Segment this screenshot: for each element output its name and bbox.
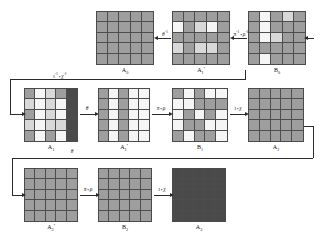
matrix-cell bbox=[119, 99, 129, 109]
matrix-cell bbox=[260, 43, 271, 53]
matrix-cell bbox=[173, 54, 184, 64]
matrix-cell bbox=[119, 54, 130, 64]
matrix-cell bbox=[207, 12, 218, 22]
matrix-cell bbox=[260, 110, 271, 120]
matrix-cell bbox=[35, 131, 45, 141]
transform-label-arrow-pi-rho-inv: π-1∘ρ-1 bbox=[221, 29, 261, 38]
matrix-cell bbox=[129, 99, 139, 109]
matrix-cell bbox=[249, 89, 260, 99]
matrix-cell bbox=[131, 22, 142, 32]
matrix-cell bbox=[249, 12, 260, 22]
matrix-cell bbox=[294, 43, 305, 53]
matrix-cell bbox=[99, 131, 109, 141]
arrow-segment bbox=[10, 79, 11, 115]
matrix-cell bbox=[204, 190, 214, 200]
matrix-cell bbox=[130, 211, 140, 221]
matrix-cell bbox=[184, 89, 195, 99]
matrix-cell bbox=[260, 99, 271, 109]
matrix-cell bbox=[46, 211, 56, 221]
matrix-cell bbox=[271, 120, 282, 130]
matrix-cell bbox=[130, 190, 140, 200]
matrix-cell bbox=[294, 22, 305, 32]
matrix-cell bbox=[292, 99, 303, 109]
matrix-cell bbox=[283, 54, 294, 64]
matrix-label-a0: A0 bbox=[96, 67, 154, 74]
matrix-cell bbox=[97, 54, 108, 64]
arrow-segment bbox=[154, 195, 170, 196]
matrix-cell bbox=[215, 211, 225, 221]
matrix-cell bbox=[142, 12, 153, 22]
matrix-cell bbox=[194, 169, 204, 179]
arrow-head-right bbox=[170, 193, 174, 197]
matrix-label-a2p: A2' bbox=[24, 224, 78, 231]
matrix-cell bbox=[129, 110, 139, 120]
matrix-cell bbox=[35, 169, 45, 179]
matrix-cell bbox=[173, 89, 184, 99]
matrix-cell bbox=[205, 99, 216, 109]
matrix-cell bbox=[218, 43, 229, 53]
matrix-cell bbox=[119, 89, 129, 99]
matrix-cell bbox=[67, 169, 77, 179]
matrix-cell bbox=[120, 190, 130, 200]
matrix-cell bbox=[207, 22, 218, 32]
matrix-cell bbox=[56, 120, 66, 130]
state-matrix-a1 bbox=[24, 88, 78, 142]
matrix-cell bbox=[184, 110, 195, 120]
matrix-cell bbox=[260, 22, 271, 32]
matrix-cell bbox=[35, 211, 45, 221]
matrix-cell bbox=[46, 179, 56, 189]
matrix-cell bbox=[260, 131, 271, 141]
matrix-label-b0: B0 bbox=[248, 67, 306, 74]
matrix-cell bbox=[25, 190, 35, 200]
matrix-cell bbox=[195, 54, 206, 64]
matrix-cell bbox=[97, 12, 108, 22]
matrix-cell bbox=[120, 169, 130, 179]
matrix-cell bbox=[46, 110, 56, 120]
matrix-cell bbox=[56, 89, 66, 99]
arrow-head-right bbox=[95, 112, 99, 116]
matrix-cell bbox=[271, 89, 282, 99]
matrix-cell bbox=[141, 200, 151, 210]
matrix-label-b2: B2 bbox=[98, 224, 152, 231]
matrix-cell bbox=[204, 169, 214, 179]
matrix-cell bbox=[139, 131, 149, 141]
matrix-cell bbox=[215, 190, 225, 200]
matrix-cell bbox=[281, 110, 292, 120]
matrix-cell bbox=[183, 190, 193, 200]
matrix-cell bbox=[109, 179, 119, 189]
state-matrix-a2p bbox=[24, 168, 78, 222]
matrix-cell bbox=[271, 33, 282, 43]
matrix-cell bbox=[184, 33, 195, 43]
matrix-cell bbox=[97, 33, 108, 43]
matrix-cell bbox=[281, 99, 292, 109]
matrix-cell bbox=[271, 22, 282, 32]
matrix-cell bbox=[215, 169, 225, 179]
matrix-cell bbox=[205, 110, 216, 120]
matrix-cell bbox=[195, 120, 206, 130]
arrow-segment bbox=[80, 114, 95, 115]
matrix-cell bbox=[184, 131, 195, 141]
matrix-cell bbox=[249, 43, 260, 53]
matrix-cell bbox=[142, 43, 153, 53]
matrix-cell bbox=[292, 89, 303, 99]
matrix-cell bbox=[120, 211, 130, 221]
matrix-cell bbox=[109, 211, 119, 221]
arrow-segment bbox=[10, 114, 22, 115]
matrix-cell bbox=[108, 43, 119, 53]
matrix-cell bbox=[271, 110, 282, 120]
matrix-cell bbox=[108, 22, 119, 32]
matrix-cell bbox=[271, 131, 282, 141]
matrix-cell bbox=[131, 12, 142, 22]
matrix-cell bbox=[173, 131, 184, 141]
state-matrix-a2 bbox=[248, 88, 304, 142]
arrow-head-right bbox=[96, 193, 100, 197]
matrix-cell bbox=[215, 200, 225, 210]
matrix-cell bbox=[292, 120, 303, 130]
arrow-segment bbox=[12, 195, 22, 196]
matrix-cell bbox=[141, 169, 151, 179]
matrix-label-b1: B1 bbox=[172, 144, 228, 151]
matrix-cell bbox=[25, 131, 35, 141]
matrix-cell bbox=[216, 131, 227, 141]
matrix-cell bbox=[173, 211, 183, 221]
matrix-cell bbox=[184, 120, 195, 130]
